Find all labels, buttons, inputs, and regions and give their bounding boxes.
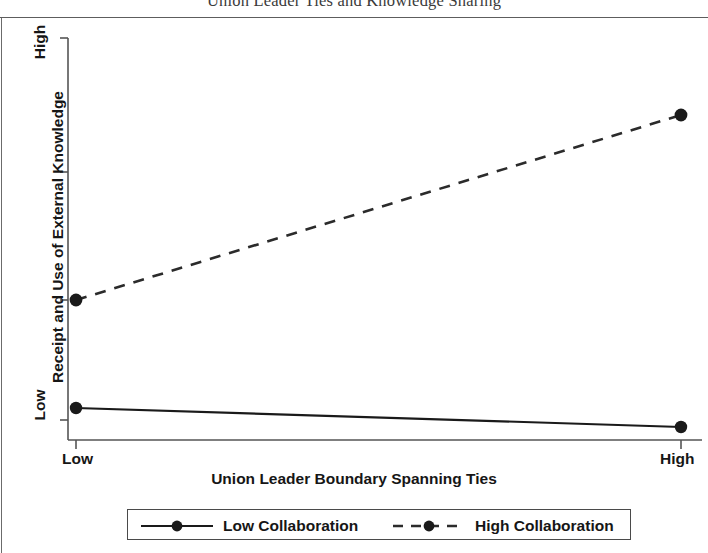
x-axis-tick-label-low: Low: [62, 450, 93, 468]
y-axis-tick-label-low: Low: [31, 382, 49, 428]
data-point-high-collab-low-ties: [70, 294, 83, 307]
y-axis-tick-label-high: High: [31, 19, 49, 65]
data-point-low-collab-high-ties: [675, 421, 687, 433]
series-high-collaboration-line: [76, 115, 681, 300]
x-axis-ticks: [76, 440, 681, 449]
y-axis-title: Receipt and Use of External Knowledge: [49, 87, 67, 387]
legend-label-high-collaboration: High Collaboration: [475, 517, 614, 535]
legend-swatch-solid-line-icon: [140, 519, 214, 533]
legend-item-high-collaboration: High Collaboration: [392, 510, 614, 541]
series-low-collaboration: [70, 402, 687, 433]
series-low-collaboration-line: [76, 408, 681, 427]
data-point-low-collab-low-ties: [70, 402, 82, 414]
legend-item-low-collaboration: Low Collaboration: [140, 510, 358, 541]
legend-swatch-dashed-line-icon: [392, 519, 466, 533]
data-point-high-collab-high-ties: [675, 109, 688, 122]
legend-label-low-collaboration: Low Collaboration: [223, 517, 358, 535]
x-axis-title: Union Leader Boundary Spanning Ties: [0, 470, 708, 488]
x-axis-tick-label-high: High: [660, 450, 694, 468]
series-high-collaboration: [70, 109, 688, 307]
chart-legend: Low Collaboration High Collaboration: [127, 509, 631, 540]
